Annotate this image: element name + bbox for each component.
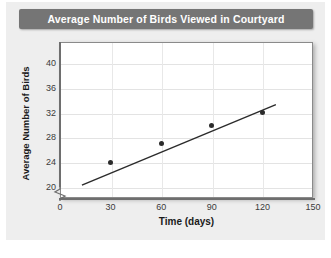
chart-title: Average Number of Birds Viewed in Courty… <box>48 13 285 25</box>
chart-screenshot: Average Number of Birds Viewed in Courty… <box>0 0 331 258</box>
plot-area <box>60 42 313 198</box>
y-tick-label: 20 <box>36 182 56 192</box>
y-axis-title: Average Number of Birds <box>20 49 31 199</box>
y-tick-labels: 202428323640 <box>34 0 56 258</box>
gridline-horizontal <box>61 64 312 65</box>
y-tick-label: 36 <box>36 83 56 93</box>
x-tick-label: 120 <box>247 202 277 212</box>
data-point <box>260 110 265 115</box>
gridline-horizontal <box>61 138 312 139</box>
x-tick-label: 60 <box>146 202 176 212</box>
y-axis-line <box>59 42 61 187</box>
x-axis-line <box>59 198 315 200</box>
y-tick-label: 40 <box>36 58 56 68</box>
chart-title-bar: Average Number of Birds Viewed in Courty… <box>19 9 313 29</box>
gridline-vertical <box>213 43 214 197</box>
y-tick-label: 24 <box>36 157 56 167</box>
data-point <box>108 160 113 165</box>
gridline-horizontal <box>61 114 312 115</box>
y-tick-label: 28 <box>36 132 56 142</box>
gridline-vertical <box>112 43 113 197</box>
gridline-vertical <box>162 43 163 197</box>
y-tick-label: 32 <box>36 108 56 118</box>
data-point <box>159 141 164 146</box>
x-tick-label: 30 <box>96 202 126 212</box>
gridline-vertical <box>263 43 264 197</box>
gridline-horizontal <box>61 89 312 90</box>
gridline-horizontal <box>61 188 312 189</box>
data-point <box>209 123 214 128</box>
x-tick-label: 90 <box>197 202 227 212</box>
gridline-horizontal <box>61 163 312 164</box>
x-tick-label: 0 <box>45 202 75 212</box>
x-tick-label: 150 <box>298 202 328 212</box>
x-axis-title: Time (days) <box>60 216 313 227</box>
